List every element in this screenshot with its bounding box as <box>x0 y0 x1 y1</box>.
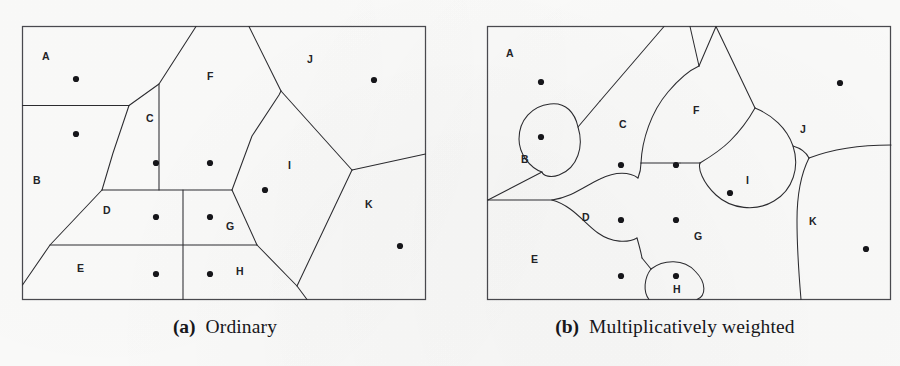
generator-point-f <box>673 162 679 168</box>
generator-point-e <box>618 273 624 279</box>
generator-point-g <box>673 217 679 223</box>
region-label-d: D <box>582 211 590 223</box>
generator-point-b <box>73 131 79 137</box>
caption-tag-b: (b) <box>555 316 584 337</box>
generator-point-e <box>153 271 159 277</box>
region-label-i: I <box>746 174 749 186</box>
multiplicatively-weighted-voronoi-diagram: A B C D E F G H I J K <box>450 0 900 310</box>
generator-point-j <box>371 77 377 83</box>
generator-point-i <box>262 187 268 193</box>
region-label-i: I <box>288 159 291 171</box>
generator-point-b <box>538 134 544 140</box>
ordinary-voronoi-diagram: A B C D E F G H J I K <box>0 0 450 310</box>
panel-multiplicatively-weighted: A B C D E F G H I J K (b) Multiplicative… <box>450 0 900 366</box>
generator-point-h <box>207 271 213 277</box>
region-label-f: F <box>207 70 214 82</box>
region-label-a: A <box>42 50 50 62</box>
generator-point-i <box>727 190 733 196</box>
region-label-a: A <box>506 47 514 59</box>
region-label-b: B <box>33 174 41 186</box>
voronoi-edges-ordinary <box>23 27 426 300</box>
region-label-k: K <box>365 198 373 210</box>
region-label-h: H <box>673 283 681 295</box>
generator-point-a <box>538 79 544 85</box>
region-label-d: D <box>103 204 111 216</box>
region-label-h: H <box>236 265 244 277</box>
region-label-c: C <box>619 118 627 130</box>
voronoi-edges-weighted <box>488 27 892 300</box>
region-label-j: J <box>307 53 313 65</box>
figure-canvas: A B C D E F G H J I K (a) Ordinary <box>0 0 900 366</box>
region-label-g: G <box>226 220 234 232</box>
region-label-e: E <box>531 253 538 265</box>
region-label-k: K <box>809 215 817 227</box>
caption-tag-a: (a) <box>173 316 201 337</box>
caption-ordinary: (a) Ordinary <box>0 316 450 338</box>
generator-point-f <box>207 160 213 166</box>
region-label-f: F <box>693 104 700 116</box>
caption-text-a: Ordinary <box>206 316 278 337</box>
generator-point-k <box>397 243 403 249</box>
generator-point-k <box>863 246 869 252</box>
generator-point-g <box>207 214 213 220</box>
generator-point-c <box>153 160 159 166</box>
region-label-g: G <box>694 230 702 242</box>
region-labels-weighted: A B C D E F G H I J K <box>506 47 817 295</box>
generator-points-ordinary <box>73 76 403 277</box>
generator-point-h <box>673 273 679 279</box>
region-label-c: C <box>146 112 154 124</box>
panel-ordinary: A B C D E F G H J I K (a) Ordinary <box>0 0 450 366</box>
generator-point-d <box>618 217 624 223</box>
caption-multiplicatively-weighted: (b) Multiplicatively weighted <box>450 316 900 338</box>
region-labels-ordinary: A B C D E F G H J I K <box>33 50 373 277</box>
region-label-b: B <box>521 153 529 165</box>
generator-point-j <box>837 80 843 86</box>
caption-text-b: Multiplicatively weighted <box>589 316 795 337</box>
region-label-e: E <box>77 262 84 274</box>
region-label-j: J <box>800 123 806 135</box>
generator-point-c <box>618 162 624 168</box>
generator-point-a <box>73 76 79 82</box>
generator-point-d <box>153 214 159 220</box>
diagram-frame <box>23 27 426 300</box>
